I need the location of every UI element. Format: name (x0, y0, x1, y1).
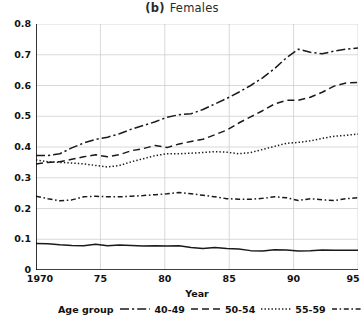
legend-entry-60-64[interactable]: 60-64 (332, 304, 364, 315)
legend-line-swatch-dotted-icon (261, 304, 291, 314)
x-tick-label: 80 (158, 274, 171, 284)
panel-letter: (b) (145, 1, 164, 15)
y-tick-label: 0.1 (5, 235, 31, 245)
x-tick-label: 1970 (27, 274, 53, 284)
page-title: (b)Females (0, 1, 364, 15)
legend-entry-50-54[interactable]: 50-54 (191, 304, 255, 315)
y-tick-label: 0.5 (5, 112, 31, 122)
title-text: Females (170, 1, 219, 15)
plot-area (36, 24, 358, 270)
y-axis-tick-labels: 00.10.20.30.40.50.60.70.8 (0, 24, 31, 270)
y-tick-label: 0.8 (5, 19, 31, 29)
chart-canvas (36, 24, 358, 270)
legend-label: 40-49 (154, 304, 184, 315)
legend: Age group 40-4950-5455-5960-6465-69 (0, 301, 364, 317)
legend-line-swatch-dashed-icon (191, 304, 221, 314)
series-line-55-59 (36, 134, 358, 167)
series-line-65-69 (36, 244, 358, 251)
x-axis-title: Year (36, 288, 358, 299)
x-tick-label: 85 (223, 274, 236, 284)
series-lines (36, 48, 358, 251)
y-tick-label: 0.7 (5, 50, 31, 60)
legend-entry-55-59[interactable]: 55-59 (261, 304, 325, 315)
x-tick-label: 75 (94, 274, 107, 284)
legend-line-swatch-dashdot-icon (120, 304, 150, 314)
series-line-50-54 (36, 82, 358, 163)
legend-line-swatch-dashdotdot-icon (332, 304, 362, 314)
chart-figure: (b)Females 00.10.20.30.40.50.60.70.8 197… (0, 0, 364, 317)
y-tick-label: 0.3 (5, 173, 31, 183)
y-tick-label: 0.4 (5, 142, 31, 152)
legend-label: 55-59 (295, 304, 325, 315)
x-axis-tick-labels: 19707580859095 (36, 274, 358, 288)
x-tick-label: 95 (346, 274, 359, 284)
y-tick-label: 0.6 (5, 81, 31, 91)
gridlines (36, 24, 358, 270)
x-tick-label: 90 (287, 274, 300, 284)
series-line-60-64 (36, 193, 358, 201)
y-tick-label: 0.2 (5, 204, 31, 214)
legend-title: Age group (58, 304, 113, 315)
series-line-40-49 (36, 48, 358, 156)
legend-label: 50-54 (225, 304, 255, 315)
legend-entry-40-49[interactable]: 40-49 (120, 304, 184, 315)
